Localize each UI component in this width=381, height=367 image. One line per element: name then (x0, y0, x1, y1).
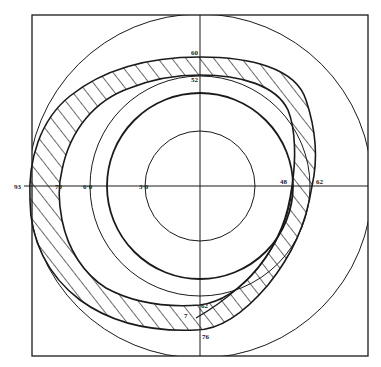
label-right-inner: 48 (280, 178, 288, 186)
label-top-inner: 52 (191, 76, 199, 84)
label-left-60: 6·0 (83, 183, 93, 191)
label-bottom-inner: 62 (201, 302, 209, 310)
label-top-outer: 60 (191, 49, 199, 57)
label-left-isopter: 70 (55, 183, 63, 191)
label-right-outer: 62 (316, 178, 324, 186)
label-left-30: 3·0 (139, 183, 149, 191)
label-left-far: 93 (14, 183, 22, 191)
perimetry-diagram: 60 52 93 70 6·0 3·0 48 62 62 7 76 (0, 0, 381, 367)
label-bottom-mark: 7 (184, 312, 188, 320)
label-bottom-outer: 76 (202, 333, 210, 341)
